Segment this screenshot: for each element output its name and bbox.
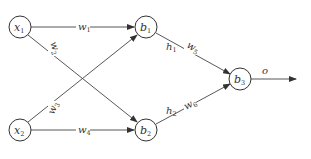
label-h1: h1	[166, 41, 177, 54]
neural-network-diagram: x1 x2 b1 b2 b3 w1 w2 w3 w4 w5 w6 h1 h2 o	[0, 0, 311, 159]
label-output: o	[262, 65, 268, 76]
diagram-svg: x1 x2 b1 b2 b3 w1 w2 w3 w4 w5 w6 h1 h2 o	[0, 0, 311, 159]
